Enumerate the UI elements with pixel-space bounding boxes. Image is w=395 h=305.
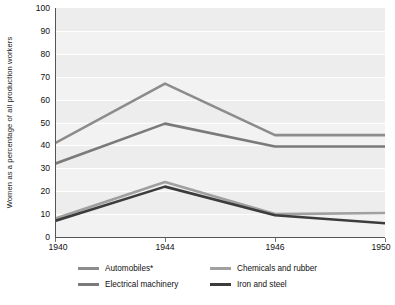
x-tick-label: 1940 [48, 242, 67, 252]
plot-area [55, 8, 385, 237]
chart-legend: Automobiles* Electrical machinery Chemic… [78, 261, 388, 295]
series-line-3 [55, 187, 385, 224]
line-chart-figure: Women as a percentage of all production … [0, 0, 395, 305]
y-tick-label: 100 [36, 3, 50, 13]
y-tick-label: 50 [40, 118, 50, 128]
legend-label: Automobiles* [105, 264, 153, 273]
legend-swatch-icon [210, 267, 231, 270]
y-tick-label: 10 [40, 209, 50, 219]
legend-label: Chemicals and rubber [237, 264, 317, 273]
y-axis-line [55, 8, 56, 238]
y-axis-tick-labels: 0102030405060708090100 [20, 0, 54, 245]
legend-swatch-icon [78, 283, 99, 286]
x-tick-label: 1944 [155, 242, 174, 252]
legend-swatch-icon [78, 267, 99, 270]
series-lines [55, 8, 385, 237]
legend-label: Electrical machinery [105, 280, 178, 289]
y-tick-label: 40 [40, 140, 50, 150]
legend-label: Iron and steel [237, 280, 287, 289]
x-tick-label: 1946 [265, 242, 284, 252]
legend-item-electrical-machinery[interactable]: Electrical machinery [78, 277, 178, 291]
legend-item-iron-and-steel[interactable]: Iron and steel [210, 277, 287, 291]
legend-item-chemicals-and-rubber[interactable]: Chemicals and rubber [210, 261, 317, 275]
x-tick-label: 1950 [371, 242, 390, 252]
y-axis-title: Women as a percentage of all production … [0, 0, 20, 245]
y-tick-label: 80 [40, 49, 50, 59]
y-axis-title-text: Women as a percentage of all production … [6, 37, 15, 209]
y-tick-label: 0 [45, 232, 50, 242]
y-tick-label: 20 [40, 186, 50, 196]
x-axis-tick-labels: 1940194419461950 [0, 242, 395, 256]
y-tick-label: 70 [40, 72, 50, 82]
y-tick-label: 90 [40, 26, 50, 36]
y-tick-label: 60 [40, 95, 50, 105]
legend-swatch-icon [210, 283, 231, 286]
legend-item-automobiles[interactable]: Automobiles* [78, 261, 153, 275]
y-tick-label: 30 [40, 163, 50, 173]
series-line-1 [55, 124, 385, 164]
